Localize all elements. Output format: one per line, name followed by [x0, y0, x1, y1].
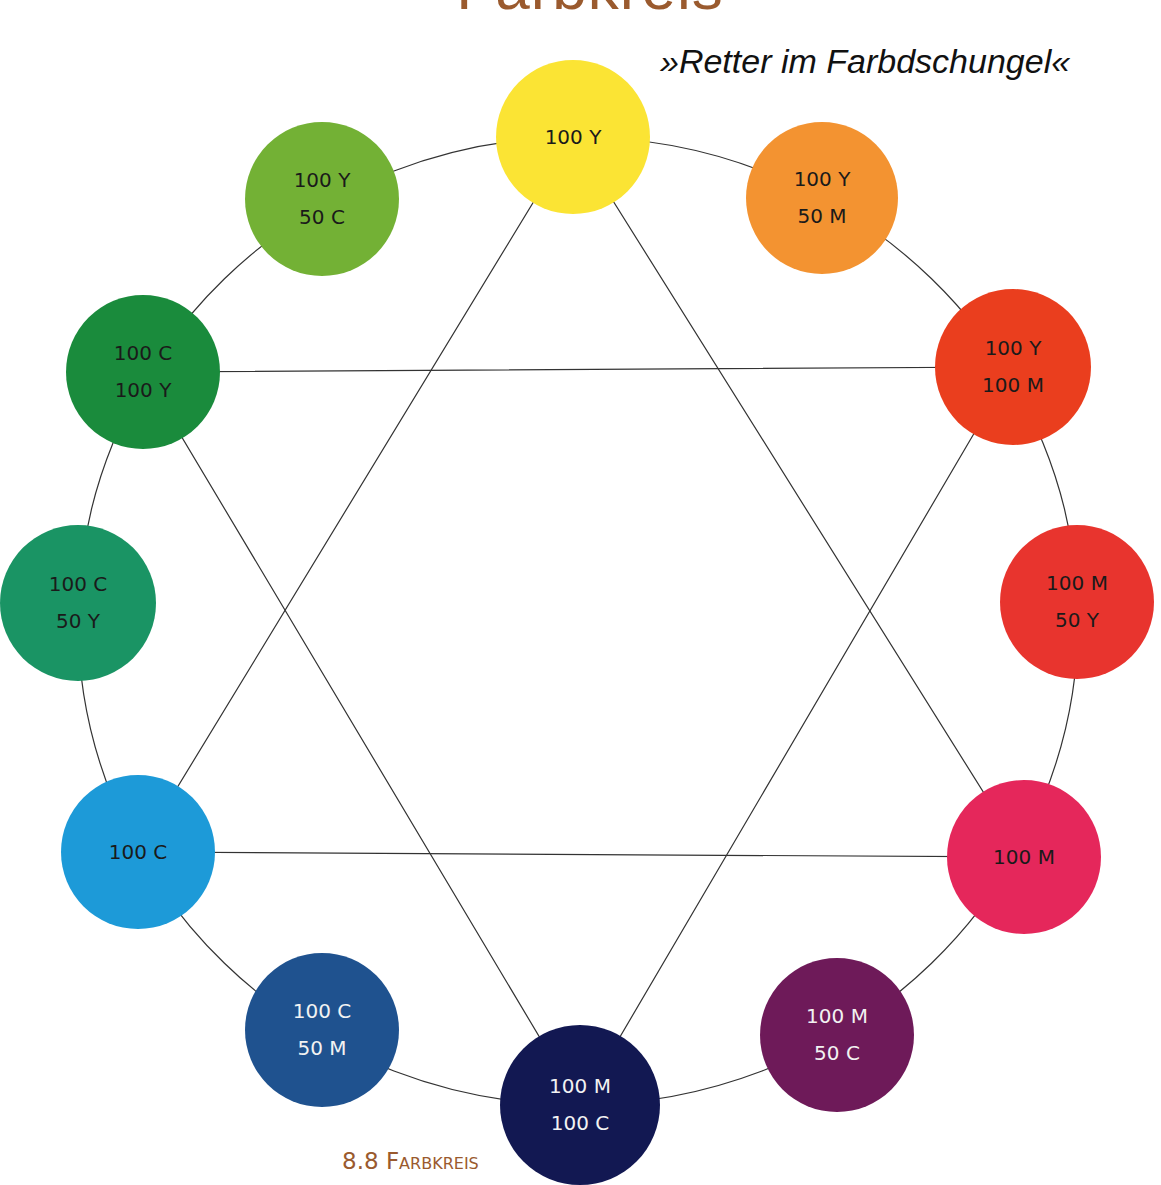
swatch-c100-y100: 100 C100 Y [66, 295, 220, 449]
swatch-label-line1: 100 Y [545, 119, 602, 156]
swatch-label-line1: 100 C [293, 993, 352, 1030]
swatch-label-line2: 50 C [814, 1035, 860, 1072]
swatch-label-line1: 100 M [993, 839, 1055, 876]
swatch-label-line1: 100 C [49, 566, 108, 603]
swatch-label-line2: 50 M [297, 1030, 346, 1067]
swatch-m100-c50: 100 M50 C [760, 958, 914, 1112]
swatch-y100-m50: 100 Y50 M [746, 122, 898, 274]
swatch-label-line2: 50 Y [1055, 602, 1099, 639]
swatch-m100: 100 M [947, 780, 1101, 934]
swatch-c100: 100 C [61, 775, 215, 929]
wheel-ring [78, 137, 1078, 1105]
swatch-label-line1: 100 C [114, 335, 173, 372]
swatch-label-line1: 100 Y [985, 330, 1042, 367]
figure-caption: 8.8 Farbkreis [342, 1148, 479, 1174]
swatch-c100-y50: 100 C50 Y [0, 525, 156, 681]
swatch-label-line1: 100 M [806, 998, 868, 1035]
swatch-label-line1: 100 Y [794, 161, 851, 198]
swatch-label-line1: 100 M [1046, 565, 1108, 602]
swatch-label-line2: 100 M [982, 367, 1044, 404]
swatch-m100-y50: 100 M50 Y [1000, 525, 1154, 679]
swatch-label-line2: 100 C [551, 1105, 610, 1142]
swatch-m100-c100: 100 M100 C [500, 1025, 660, 1185]
swatch-y100-c50: 100 Y50 C [245, 122, 399, 276]
swatch-c100-m50: 100 C50 M [245, 953, 399, 1107]
swatch-label-line1: 100 M [549, 1068, 611, 1105]
swatch-label-line2: 50 Y [56, 603, 100, 640]
swatch-label-line2: 100 Y [115, 372, 172, 409]
swatch-y100: 100 Y [496, 60, 650, 214]
swatch-label-line1: 100 Y [294, 162, 351, 199]
swatch-label-line2: 50 M [797, 198, 846, 235]
swatch-y100-m100: 100 Y100 M [935, 289, 1091, 445]
swatch-label-line1: 100 C [109, 834, 168, 871]
swatch-label-line2: 50 C [299, 199, 345, 236]
